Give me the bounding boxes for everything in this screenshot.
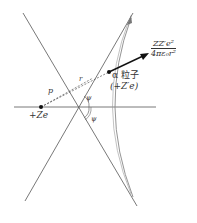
angle-label-lower: ψ xyxy=(91,116,97,123)
radius-label: r xyxy=(79,76,82,83)
force-formula: ZZ′e² 4πε₀r² xyxy=(151,40,176,59)
force-numerator: ZZ′e² xyxy=(151,40,176,49)
particle-name-label: α 粒子 xyxy=(112,71,139,80)
particle-charge-label: (+Z′e) xyxy=(110,82,138,91)
angle-arc-lower xyxy=(84,107,89,118)
trajectory-curve xyxy=(115,18,133,197)
force-arrowhead xyxy=(140,53,149,60)
force-denominator: 4πε₀r² xyxy=(151,49,176,58)
nucleus-label: +Ze xyxy=(29,111,48,120)
angle-label-upper: ψ xyxy=(86,95,92,102)
nucleus-dot xyxy=(39,105,43,109)
impact-parameter-label: p xyxy=(48,87,53,95)
